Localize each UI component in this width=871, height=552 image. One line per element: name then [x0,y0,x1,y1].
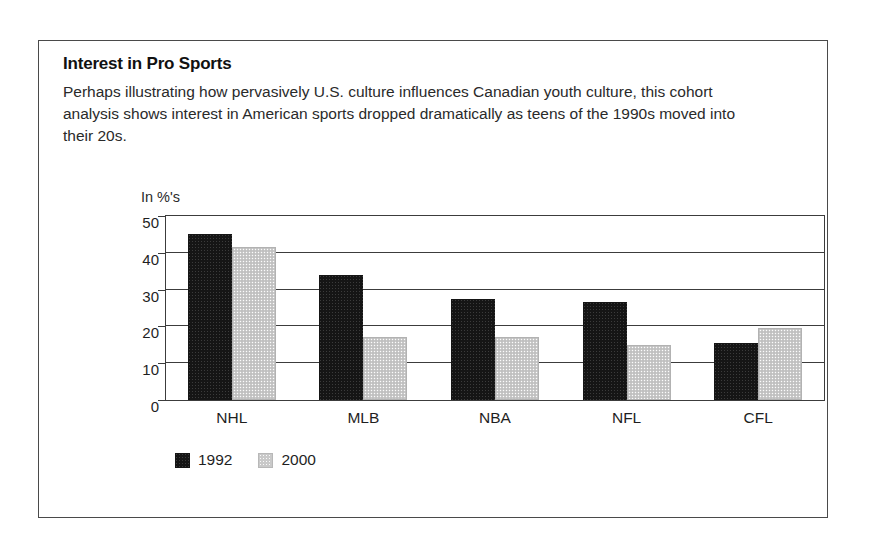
x-axis-tick-label: NHL [177,409,287,427]
bar-2000[interactable] [758,328,802,400]
y-axis-tick-mark [158,326,165,327]
legend-swatch-1992 [175,453,190,468]
y-axis-tick-label: 30 [119,288,159,290]
bars-layer [166,216,824,400]
legend-entry[interactable]: 2000 [258,451,315,469]
chart-legend: 19922000 [175,451,316,469]
bar-group [583,216,671,400]
y-axis-tick-label: 10 [119,361,159,363]
legend-entry[interactable]: 1992 [175,451,232,469]
bar-1992[interactable] [451,299,495,400]
y-axis-tick-mark [158,216,165,217]
bar-2000[interactable] [363,337,407,400]
bar-group [451,216,539,400]
y-axis-unit-label: In %'s [141,189,180,205]
bar-group [319,216,407,400]
figure-description: Perhaps illustrating how pervasively U.S… [63,81,763,147]
legend-label: 1992 [198,451,232,469]
y-axis-tick-mark [158,400,165,401]
bar-1992[interactable] [319,275,363,400]
y-axis-tick-mark [158,290,165,291]
y-axis-tick-mark [158,253,165,254]
x-axis-tick-label: NBA [440,409,550,427]
y-axis-tick-mark [158,363,165,364]
x-axis-tick-label: NFL [572,409,682,427]
figure-title: Interest in Pro Sports [63,54,231,74]
y-axis-tick-label: 0 [119,398,159,400]
legend-swatch-2000 [258,453,273,468]
bar-group [714,216,802,400]
x-axis-tick-label: MLB [308,409,418,427]
y-axis-tick-label: 40 [119,251,159,253]
y-axis-tick-labels: 01020304050 [105,215,159,401]
bar-chart: In %'s 01020304050 NHLMLBNBANFLCFL 19922… [63,189,803,489]
bar-2000[interactable] [627,345,671,400]
x-axis-tick-label: CFL [703,409,813,427]
bar-1992[interactable] [583,302,627,400]
bar-1992[interactable] [188,234,232,400]
figure-panel: Interest in Pro Sports Perhaps illustrat… [38,40,828,518]
bar-group [188,216,276,400]
y-axis-tick-label: 20 [119,324,159,326]
legend-label: 2000 [281,451,315,469]
bar-2000[interactable] [495,337,539,400]
bar-2000[interactable] [232,247,276,400]
y-axis-tick-label: 50 [119,214,159,216]
bar-1992[interactable] [714,343,758,400]
